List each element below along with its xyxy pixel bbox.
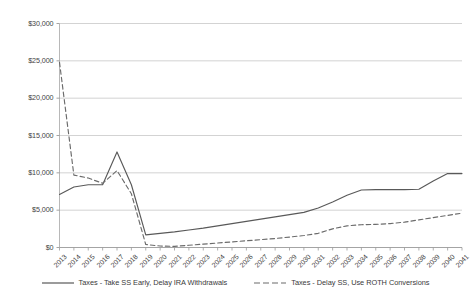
legend-solid-line-icon xyxy=(41,279,75,287)
chart-legend: Taxes - Take SS Early, Delay IRA Withdra… xyxy=(0,278,470,298)
data-series xyxy=(60,62,463,246)
y-axis-label: $10,000 xyxy=(28,168,53,177)
legend-item-dashed: Taxes - Delay SS, Use ROTH Conversions xyxy=(253,278,429,287)
y-axis-label: $20,000 xyxy=(28,93,53,102)
legend-item-solid: Taxes - Take SS Early, Delay IRA Withdra… xyxy=(41,278,228,287)
y-axis-label: $30,000 xyxy=(28,19,53,28)
legend-label-dashed: Taxes - Delay SS, Use ROTH Conversions xyxy=(291,278,429,287)
gridlines xyxy=(60,24,463,211)
tax-comparison-line-chart: $30,000$25,000$20,000$15,000$10,000$5,00… xyxy=(0,0,470,300)
y-axis-label: $25,000 xyxy=(28,56,53,65)
series-line-solid xyxy=(60,152,463,235)
y-axis-label: $15,000 xyxy=(28,131,53,140)
y-axis-label: $5,000 xyxy=(32,205,53,214)
legend-dashed-line-icon xyxy=(253,279,287,287)
legend-label-solid: Taxes - Take SS Early, Delay IRA Withdra… xyxy=(79,278,228,287)
y-axis-label: $0 xyxy=(46,243,54,252)
